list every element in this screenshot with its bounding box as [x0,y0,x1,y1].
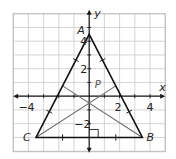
triangle-diagram: xy−42442−2ABCP [0,0,176,159]
point-label-p: P [95,79,102,90]
x-tick-label: 2 [115,101,122,114]
x-axis-label: x [158,81,166,94]
y-tick-label: 2 [80,63,87,76]
y-tick-label: −2 [74,118,90,131]
x-axis-arrow-left-icon [13,94,18,99]
x-tick-label: −4 [18,101,34,114]
vertex-label-a: A [76,24,85,37]
x-axis-arrow-right-icon [160,94,165,99]
axes [13,10,165,153]
y-axis-arrow-up-icon [87,10,92,15]
y-axis-label: y [93,7,101,20]
vertex-label-b: B [146,131,154,144]
x-tick-label: 4 [147,101,154,114]
right-angle-marker [89,129,98,137]
vertex-label-c: C [23,131,31,144]
